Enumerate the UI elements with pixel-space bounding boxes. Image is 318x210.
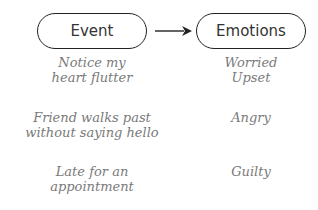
emotion-text-line: Upset (196, 70, 306, 85)
event-node: Event (37, 13, 147, 49)
emotion-text-row-1: Worried Upset (196, 55, 306, 85)
event-text-row-1: Notice my heart flutter (0, 55, 184, 85)
event-text-row-2: Friend walks past without saying hello (0, 110, 184, 140)
event-text-line: appointment (0, 179, 184, 194)
event-text-line: heart flutter (0, 70, 184, 85)
event-text-line: Notice my (0, 55, 184, 70)
emotion-text-row-2: Angry (196, 110, 306, 125)
event-node-label: Event (71, 22, 114, 40)
emotions-node: Emotions (196, 13, 306, 49)
emotion-text-line: Guilty (196, 164, 306, 179)
emotion-text-line: Angry (196, 110, 306, 125)
emotion-text-row-3: Guilty (196, 164, 306, 179)
emotions-node-label: Emotions (216, 22, 286, 40)
arrow-right-icon (154, 24, 194, 38)
event-text-row-3: Late for an appointment (0, 164, 184, 194)
event-text-line: without saying hello (0, 125, 184, 140)
event-text-line: Late for an (0, 164, 184, 179)
emotion-text-line: Worried (196, 55, 306, 70)
event-text-line: Friend walks past (0, 110, 184, 125)
